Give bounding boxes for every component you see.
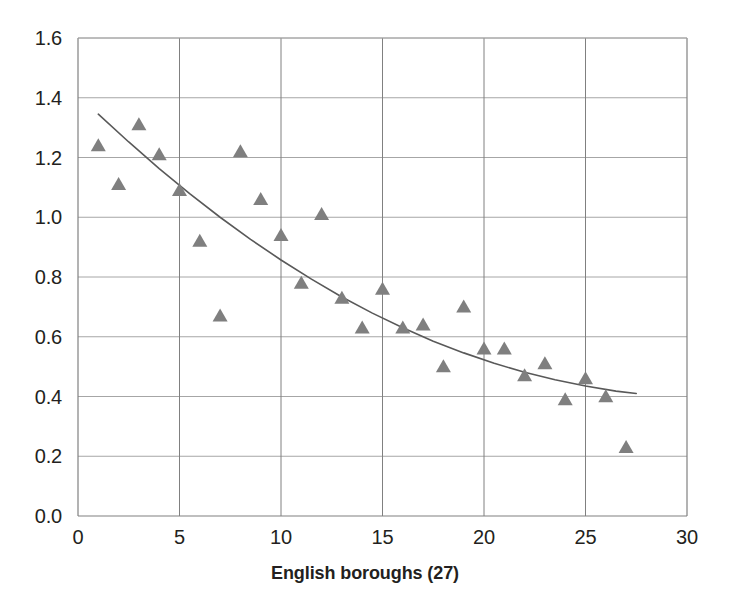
x-tick-label: 0 xyxy=(73,526,84,549)
x-tick-label: 5 xyxy=(174,526,185,549)
x-tick-label: 25 xyxy=(575,526,597,549)
y-tick-label: 0.0 xyxy=(0,505,62,528)
chart-background xyxy=(0,0,730,616)
y-tick-label: 0.2 xyxy=(0,445,62,468)
y-tick-label: 1.6 xyxy=(0,27,62,50)
y-tick-label: 1.4 xyxy=(0,86,62,109)
y-tick-label: 1.2 xyxy=(0,146,62,169)
x-tick-label: 20 xyxy=(473,526,495,549)
x-axis-title: English boroughs (27) xyxy=(0,563,730,584)
x-tick-label: 10 xyxy=(270,526,292,549)
x-tick-label: 15 xyxy=(372,526,394,549)
y-tick-label: 0.6 xyxy=(0,325,62,348)
y-tick-label: 0.4 xyxy=(0,385,62,408)
y-tick-label: 0.8 xyxy=(0,266,62,289)
scatter-plot xyxy=(0,0,730,616)
y-tick-label: 1.0 xyxy=(0,206,62,229)
chart-container: 0.00.20.40.60.81.01.21.41.6 051015202530… xyxy=(0,0,730,616)
x-tick-label: 30 xyxy=(676,526,698,549)
